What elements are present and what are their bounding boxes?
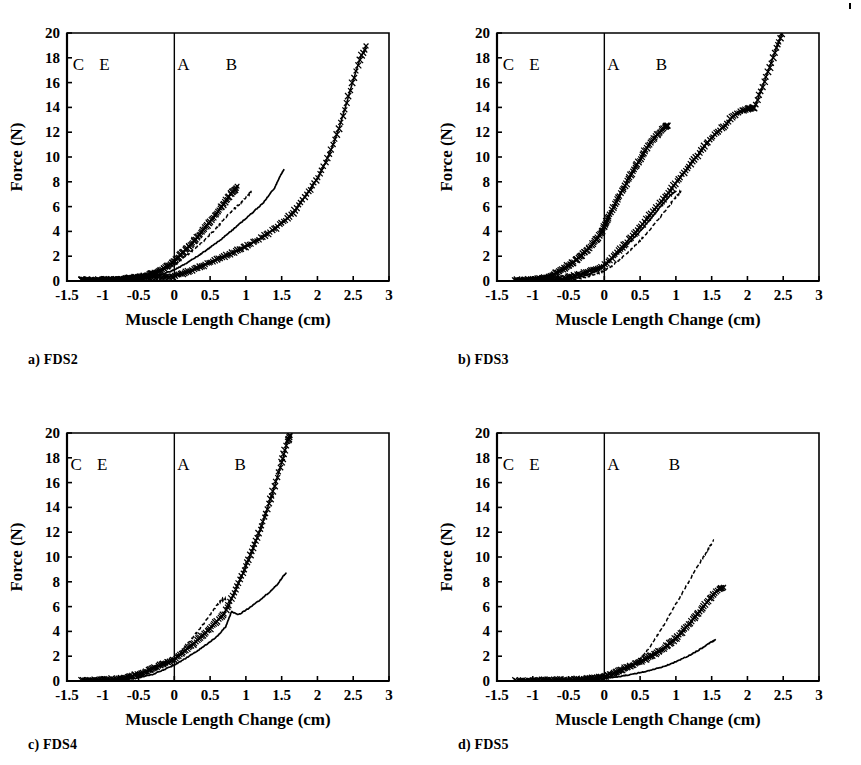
x-tick-label: 1 [242,287,250,303]
region-label-c: C [503,455,514,474]
x-tick-label: 3 [385,287,393,303]
x-tick-label: 0 [171,287,179,303]
figure-root: 02468101214161820-1.5-1-0.500.511.522.53… [0,0,861,765]
region-label-c: C [73,55,84,74]
region-label-e: E [99,55,109,74]
x-tick-label: 0 [601,287,609,303]
axis-frame [67,433,389,681]
y-tick-label: 14 [45,499,61,515]
panel-caption-d: d) FDS5 [458,737,509,753]
x-tick-label: 3 [385,687,393,703]
y-tick-label: 6 [483,599,491,615]
y-tick-label: 16 [45,75,61,91]
x-tick-label: -0.5 [557,687,581,703]
x-tick-label: 0 [171,687,179,703]
series-trial-2-marker-short [79,184,240,284]
region-label-a: A [607,455,620,474]
y-tick-label: 4 [53,623,61,639]
x-tick-label: -0.5 [127,287,151,303]
x-tick-label: 0.5 [201,687,220,703]
y-tick-label: 12 [475,124,490,140]
y-tick-label: 10 [45,149,60,165]
y-tick-label: 16 [475,75,491,91]
series-trial-4-dashed [131,191,251,278]
x-axis-label: Muscle Length Change (cm) [555,310,760,329]
plot-b: 02468101214161820-1.5-1-0.500.511.522.53… [430,0,860,335]
y-tick-label: 4 [483,623,491,639]
region-label-a: A [177,455,190,474]
y-axis-label: Force (N) [7,522,26,591]
data-series-group [512,540,726,684]
y-tick-label: 20 [45,425,60,441]
series-baseline [515,588,723,681]
axis-frame [497,433,819,681]
series-trial-3-thin-line [96,170,284,281]
y-tick-label: 2 [53,248,61,264]
x-axis-label: Muscle Length Change (cm) [125,310,330,329]
y-tick-label: 8 [483,574,491,590]
y-tick-label: 20 [475,425,490,441]
panel-caption-a: a) FDS2 [28,352,78,368]
x-tick-label: -1 [527,287,540,303]
y-tick-label: 10 [45,549,60,565]
x-axis-label: Muscle Length Change (cm) [555,710,760,729]
x-tick-label: 2.5 [344,287,363,303]
x-tick-label: 2.5 [774,287,793,303]
region-label-b: B [656,55,667,74]
series-dashed-line [131,191,251,278]
plot-c: 02468101214161820-1.5-1-0.500.511.522.53… [0,400,430,735]
y-tick-label: 14 [45,99,61,115]
y-tick-label: 20 [475,25,490,41]
y-tick-label: 4 [53,223,61,239]
y-tick-label: 6 [53,199,61,215]
y-tick-label: 2 [483,648,491,664]
panel-a: 02468101214161820-1.5-1-0.500.511.522.53… [0,0,430,335]
x-tick-label: 2 [314,287,322,303]
x-tick-label: 0.5 [201,287,220,303]
x-tick-label: 3 [815,687,823,703]
y-tick-label: 10 [475,149,490,165]
y-tick-label: 6 [53,599,61,615]
series-trial-1-marker-steep [512,123,670,284]
series-baseline [81,187,237,281]
x-tick-label: 1.5 [272,687,291,703]
panel-caption-b: b) FDS3 [458,352,509,368]
x-tick-label: -1.5 [485,287,509,303]
y-tick-label: 6 [483,199,491,215]
region-label-e: E [529,455,539,474]
y-tick-label: 16 [45,475,61,491]
data-series-group [78,43,368,284]
y-tick-label: 8 [483,174,491,190]
y-tick-label: 8 [53,574,61,590]
x-tick-label: 2 [744,687,752,703]
x-tick-label: 1.5 [272,287,291,303]
y-tick-label: 10 [475,549,490,565]
series-dashed-line [99,599,226,681]
series-thin-line [88,573,285,681]
panel-b: 02468101214161820-1.5-1-0.500.511.522.53… [430,0,860,335]
x-tick-label: 1 [672,287,680,303]
x-tick-label: 1.5 [702,287,721,303]
y-tick-label: 20 [45,25,60,41]
series-trial-1-marker-long [78,43,368,283]
x-tick-label: 1.5 [702,687,721,703]
x-tick-label: 0.5 [631,287,650,303]
plot-d: 02468101214161820-1.5-1-0.500.511.522.53… [430,400,860,735]
y-tick-label: 18 [475,450,490,466]
x-tick-label: 2 [314,687,322,703]
x-tick-label: 0 [601,687,609,703]
x-tick-label: -1 [97,287,110,303]
region-label-a: A [607,55,620,74]
y-tick-label: 8 [53,174,61,190]
region-label-c: C [503,55,514,74]
axis-lines [497,433,819,681]
series-trial-2-marker-mid [512,585,726,684]
y-tick-label: 16 [475,475,491,491]
y-tick-label: 4 [483,223,491,239]
x-tick-label: -1 [527,687,540,703]
x-tick-label: 2 [744,287,752,303]
x-tick-label: -1.5 [485,687,509,703]
y-tick-label: 14 [475,99,491,115]
x-tick-label: 3 [815,287,823,303]
x-tick-label: -1.5 [55,287,79,303]
